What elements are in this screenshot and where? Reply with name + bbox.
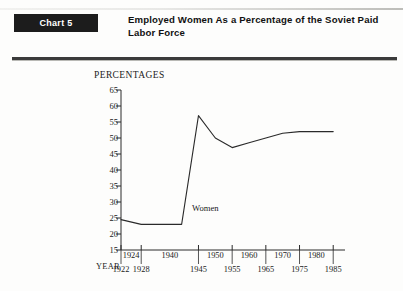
x-tick-label-lower: 1945	[190, 265, 207, 274]
axes-group	[121, 90, 345, 250]
chart-page: Chart 5 Employed Women As a Percentage o…	[0, 0, 403, 291]
y-tick-label: 65	[109, 85, 118, 95]
series-label-women: Women	[192, 203, 219, 213]
x-tick-label-upper: 1950	[207, 251, 224, 260]
x-tick-marks	[121, 245, 333, 250]
y-tick-label: 30	[109, 197, 118, 207]
y-tick-label: 40	[109, 165, 118, 175]
y-tick-label: 55	[109, 117, 118, 127]
x-tick-label-lower: 1965	[257, 265, 274, 274]
x-tick-label-upper: 1940	[161, 251, 178, 260]
y-tick-label: 35	[109, 181, 118, 191]
y-tick-label: 60	[109, 101, 118, 111]
x-label-cell-separators	[121, 250, 333, 264]
x-tick-label-upper: 1970	[274, 251, 291, 260]
y-tick-label: 15	[109, 245, 118, 255]
x-tick-label-lower: 1928	[133, 265, 150, 274]
x-tick-label-upper: 1980	[308, 251, 325, 260]
y-tick-label: 20	[109, 229, 118, 239]
y-tick-label: 45	[109, 149, 118, 159]
x-tick-label-lower: 1955	[224, 265, 241, 274]
x-tick-label-lower: 1985	[325, 265, 342, 274]
chart-canvas	[0, 0, 403, 291]
x-tick-label-upper: 1960	[241, 251, 258, 260]
x-tick-label-lower: 1975	[291, 265, 308, 274]
series-line-women	[121, 116, 333, 225]
plot-area: 1520253035404550556065 19241940195019601…	[0, 0, 403, 291]
y-tick-label: 50	[109, 133, 118, 143]
y-axis-tick-labels: 1520253035404550556065	[96, 88, 118, 250]
x-tick-label-upper: 1924	[123, 251, 140, 260]
x-axis-title: YEAR	[96, 262, 120, 271]
y-tick-label: 25	[109, 213, 118, 223]
